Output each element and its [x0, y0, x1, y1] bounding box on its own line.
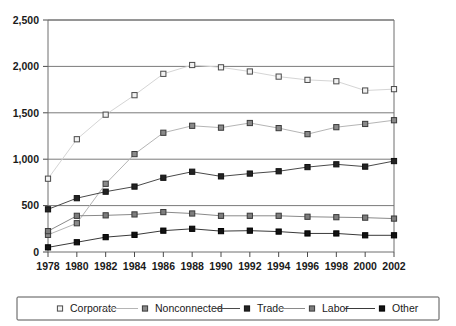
datapoint-labor-2002: Labor 2002: 360 — [391, 216, 396, 221]
datapoint-labor-2000: Labor 2000: 370 — [363, 215, 368, 220]
datapoint-trade-1992: Trade 1992: 845 — [247, 171, 252, 176]
datapoint-other-1982: Other 1982: 160 — [103, 235, 108, 240]
datapoint-labor-1998: Labor 1998: 375 — [334, 215, 339, 220]
datapoint-nonconnected-1998: Nonconnected 1998: 1345 — [334, 125, 339, 130]
datapoint-nonconnected-1982: Nonconnected 1982: 735 — [103, 181, 108, 186]
ytick-label-0: 0 — [33, 246, 39, 258]
datapoint-other-1990: Other 1990: 225 — [218, 229, 223, 234]
xtick-label-1980: 1980 — [65, 260, 89, 272]
datapoint-labor-1992: Labor 1992: 390 — [247, 213, 252, 218]
xtick-label-2002: 2002 — [382, 260, 406, 272]
ytick-label-2000: 2,000 — [13, 60, 39, 72]
datapoint-labor-1996: Labor 1996: 380 — [305, 214, 310, 219]
datapoint-corporate-1988: Corporate 1988: 2015 — [190, 62, 195, 67]
series-corporate: Corporate 1978: 790Corporate 1980: 1215C… — [45, 62, 396, 181]
datapoint-other-1986: Other 1986: 230 — [161, 228, 166, 233]
xtick-label-1998: 1998 — [325, 260, 349, 272]
datapoint-other-1980: Other 1980: 105 — [74, 240, 79, 245]
datapoint-corporate-2000: Corporate 2000: 1740 — [363, 88, 368, 93]
datapoint-labor-1980: Labor 1980: 390 — [74, 213, 79, 218]
datapoint-other-1984: Other 1984: 185 — [132, 232, 137, 237]
legend-marker-corporate — [57, 306, 62, 311]
datapoint-corporate-1982: Corporate 1982: 1480 — [103, 112, 108, 117]
xtick-label-1986: 1986 — [152, 260, 176, 272]
xtick-label-1978: 1978 — [36, 260, 60, 272]
legend-label-other: Other — [392, 302, 419, 314]
ytick-label-1000: 1,000 — [13, 153, 39, 165]
datapoint-nonconnected-1994: Nonconnected 1994: 1335 — [276, 126, 281, 131]
datapoint-corporate-1986: Corporate 1986: 1920 — [161, 71, 166, 76]
legend-marker-trade — [244, 306, 249, 311]
datapoint-nonconnected-1980: Nonconnected 1980: 310 — [74, 221, 79, 226]
datapoint-other-1978: Other 1978: 50 — [45, 245, 50, 250]
ytick-label-2500: 2,500 — [13, 14, 39, 26]
datapoint-trade-1998: Trade 1998: 945 — [334, 162, 339, 167]
datapoint-nonconnected-1996: Nonconnected 1996: 1270 — [305, 132, 310, 137]
xtick-label-1982: 1982 — [94, 260, 118, 272]
datapoint-corporate-1984: Corporate 1984: 1690 — [132, 93, 137, 98]
legend-marker-nonconnected — [142, 306, 147, 311]
datapoint-labor-1988: Labor 1988: 415 — [190, 211, 195, 216]
datapoint-corporate-1978: Corporate 1978: 790 — [45, 176, 50, 181]
datapoint-corporate-1994: Corporate 1994: 1890 — [276, 74, 281, 79]
datapoint-trade-1978: Trade 1978: 460 — [45, 207, 50, 212]
datapoint-labor-1982: Labor 1982: 395 — [103, 213, 108, 218]
xtick-label-2000: 2000 — [353, 260, 377, 272]
xtick-label-1994: 1994 — [267, 260, 291, 272]
datapoint-trade-1996: Trade 1996: 915 — [305, 164, 310, 169]
datapoint-labor-1990: Labor 1990: 390 — [218, 213, 223, 218]
xtick-label-1990: 1990 — [209, 260, 233, 272]
ytick-label-1500: 1,500 — [13, 107, 39, 119]
legend-marker-labor — [309, 306, 314, 311]
datapoint-other-1998: Other 1998: 200 — [334, 231, 339, 236]
datapoint-trade-1986: Trade 1986: 800 — [161, 175, 166, 180]
datapoint-other-1996: Other 1996: 200 — [305, 231, 310, 236]
datapoint-trade-1990: Trade 1990: 815 — [218, 174, 223, 179]
series-line-corporate — [48, 65, 394, 179]
datapoint-nonconnected-2002: Nonconnected 2002: 1420 — [391, 118, 396, 123]
series-trade: Trade 1978: 460Trade 1980: 580Trade 1982… — [45, 158, 396, 211]
legend-marker-other — [379, 306, 384, 311]
datapoint-corporate-1992: Corporate 1992: 1945 — [247, 69, 252, 74]
datapoint-nonconnected-1986: Nonconnected 1986: 1285 — [161, 130, 166, 135]
datapoint-trade-1980: Trade 1980: 580 — [74, 196, 79, 201]
xtick-label-1984: 1984 — [123, 260, 147, 272]
datapoint-other-1992: Other 1992: 230 — [247, 228, 252, 233]
datapoint-other-1988: Other 1988: 250 — [190, 226, 195, 231]
datapoint-nonconnected-1988: Nonconnected 1988: 1360 — [190, 123, 195, 128]
datapoint-other-2000: Other 2000: 180 — [363, 233, 368, 238]
datapoint-labor-1978: Labor 1978: 225 — [45, 229, 50, 234]
datapoint-other-2002: Other 2002: 180 — [391, 233, 396, 238]
xtick-label-1988: 1988 — [180, 260, 204, 272]
datapoint-trade-1994: Trade 1994: 870 — [276, 169, 281, 174]
xtick-label-1992: 1992 — [238, 260, 262, 272]
datapoint-corporate-1998: Corporate 1998: 1840 — [334, 79, 339, 84]
datapoint-other-1994: Other 1994: 220 — [276, 229, 281, 234]
datapoint-trade-2002: Trade 2002: 980 — [391, 158, 396, 163]
datapoint-labor-1984: Labor 1984: 405 — [132, 212, 137, 217]
datapoint-nonconnected-2000: Nonconnected 2000: 1380 — [363, 121, 368, 126]
series-other: Other 1978: 50Other 1980: 105Other 1982:… — [45, 226, 396, 250]
line-chart: 05001,0001,5002,0002,5001978198019821984… — [0, 0, 456, 326]
series-line-trade — [48, 161, 394, 209]
datapoint-trade-1988: Trade 1988: 865 — [190, 169, 195, 174]
datapoint-corporate-1996: Corporate 1996: 1855 — [305, 77, 310, 82]
chart-container: 05001,0001,5002,0002,5001978198019821984… — [0, 0, 456, 326]
datapoint-nonconnected-1992: Nonconnected 1992: 1390 — [247, 120, 252, 125]
datapoint-trade-1982: Trade 1982: 650 — [103, 189, 108, 194]
datapoint-corporate-1990: Corporate 1990: 1990 — [218, 65, 223, 70]
datapoint-corporate-2002: Corporate 2002: 1755 — [391, 87, 396, 92]
xtick-label-1996: 1996 — [296, 260, 320, 272]
datapoint-trade-1984: Trade 1984: 705 — [132, 184, 137, 189]
datapoint-nonconnected-1990: Nonconnected 1990: 1340 — [218, 125, 223, 130]
datapoint-corporate-1980: Corporate 1980: 1215 — [74, 137, 79, 142]
ytick-label-500: 500 — [21, 199, 39, 211]
datapoint-trade-2000: Trade 2000: 920 — [363, 164, 368, 169]
datapoint-labor-1994: Labor 1994: 390 — [276, 213, 281, 218]
datapoint-labor-1986: Labor 1986: 430 — [161, 210, 166, 215]
datapoint-nonconnected-1984: Nonconnected 1984: 1055 — [132, 152, 137, 157]
